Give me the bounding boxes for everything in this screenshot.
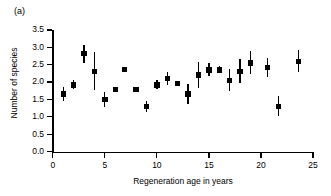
data-point-marker	[227, 78, 232, 83]
data-point-marker	[102, 97, 107, 102]
plot-area: 0.00.51.01.52.02.53.03.5 0510152025 Numb…	[0, 0, 331, 196]
data-point-marker	[175, 81, 180, 86]
data-point-marker	[81, 51, 86, 56]
data-point-marker	[92, 69, 97, 74]
data-point-marker	[165, 76, 170, 81]
data-point-marker	[113, 87, 118, 92]
y-axis-label: Number of species	[9, 33, 19, 133]
data-point-marker	[71, 82, 76, 87]
data-point-marker	[237, 69, 242, 74]
data-point-marker	[61, 91, 66, 96]
data-point-marker	[206, 67, 211, 72]
data-point-marker	[154, 82, 159, 87]
data-point-marker	[144, 104, 149, 109]
data-point-marker	[248, 60, 253, 65]
data-point-marker	[185, 91, 190, 96]
data-point-marker	[133, 87, 138, 92]
data-point-marker	[276, 104, 281, 109]
data-point-marker	[122, 67, 127, 72]
data-series-layer	[0, 0, 331, 196]
x-axis-label: Regeneration age in years	[52, 176, 314, 186]
chart-page: (a) 0.00.51.01.52.02.53.03.5 0510152025 …	[0, 0, 331, 196]
data-point-marker	[265, 65, 270, 70]
data-point-marker	[217, 67, 222, 72]
data-point-marker	[196, 72, 201, 77]
data-point-marker	[296, 59, 301, 64]
